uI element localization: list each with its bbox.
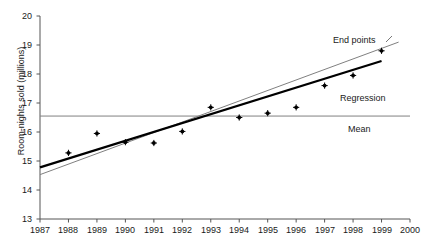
regression-line xyxy=(40,61,382,167)
end-points-line xyxy=(40,42,399,175)
label-leader-lines xyxy=(386,36,392,42)
axis-lines xyxy=(37,16,411,223)
data-point-markers xyxy=(65,48,384,156)
